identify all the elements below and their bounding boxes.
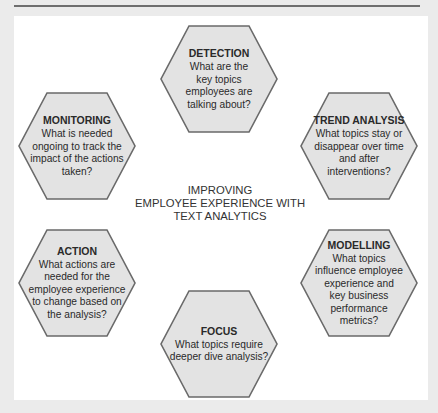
top-rule — [14, 5, 420, 7]
hexagon-monitoring: MONITORING What is needed ongoing to tra… — [17, 91, 137, 201]
hexagon-focus: FOCUS What topics require deeper dive an… — [159, 289, 279, 399]
stage-description: What topics influence employee experienc… — [315, 253, 403, 328]
center-title: IMPROVING EMPLOYEE EXPERIENCE WITH TEXT … — [130, 184, 310, 223]
stage-title: MODELLING — [328, 239, 391, 252]
stage-title: MONITORING — [43, 114, 111, 127]
hexagon-modelling: MODELLING What topics influence employee… — [299, 228, 419, 338]
stage-description: What topics require deeper dive analysis… — [170, 339, 269, 364]
hexagon-detection: DETECTION What are the key topics employ… — [159, 24, 279, 134]
stage-description: What topics stay or disappear over time … — [314, 128, 403, 178]
stage-title: FOCUS — [201, 325, 238, 338]
stage-title: DETECTION — [189, 47, 250, 60]
stage-description: What actions are needed for the employee… — [29, 259, 126, 322]
hexagon-action: ACTION What actions are needed for the e… — [17, 228, 137, 338]
stage-title: ACTION — [57, 245, 97, 258]
stage-description: What are the key topics employees are ta… — [186, 61, 253, 111]
stage-description: What is needed ongoing to track the impa… — [30, 128, 123, 178]
hexagon-trend-analysis: TREND ANALYSIS What topics stay or disap… — [299, 91, 419, 201]
stage-title: TREND ANALYSIS — [314, 114, 405, 127]
